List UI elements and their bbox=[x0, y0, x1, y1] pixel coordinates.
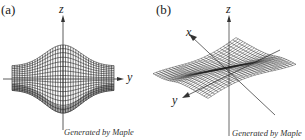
x-axis-arrow-icon bbox=[189, 34, 197, 41]
z-axis-arrow-icon bbox=[227, 15, 231, 22]
panel-b-surface-plot bbox=[0, 0, 305, 140]
y-axis-arrow-icon bbox=[182, 92, 190, 98]
